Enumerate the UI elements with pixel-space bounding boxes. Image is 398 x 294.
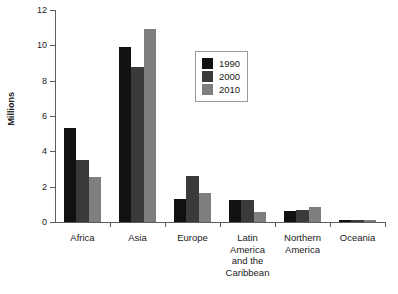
y-tick-label: 2 [42, 182, 47, 192]
plot-area: 024681012 AfricaAsiaEuropeLatinAmericaan… [55, 10, 385, 222]
legend-item: 2000 [202, 70, 240, 83]
x-tick-mark [385, 222, 386, 227]
x-axis-category-label-line: Caribbean [220, 267, 275, 279]
bar [229, 200, 242, 222]
bar [254, 212, 267, 222]
bar [199, 193, 212, 222]
x-axis-category-label: LatinAmericaand theCaribbean [220, 232, 275, 278]
x-tick-mark [330, 222, 331, 227]
legend-swatch-2000 [202, 71, 213, 82]
x-tick-mark [275, 222, 276, 227]
bar [364, 220, 377, 222]
chart-figure: Millions 024681012 AfricaAsiaEuropeLatin… [0, 0, 398, 294]
x-axis-category-label: Asia [110, 232, 165, 244]
x-axis-category-label-line: Northern [275, 232, 330, 244]
x-axis-category-label-line: Europe [165, 232, 220, 244]
x-axis-category-label-line: and the [220, 255, 275, 267]
bar [284, 211, 297, 222]
x-tick-mark [110, 222, 111, 227]
legend-item: 2010 [202, 83, 240, 96]
bars-layer [55, 10, 385, 222]
bar [89, 177, 102, 222]
bar [351, 220, 364, 222]
chart-legend: 199020002010 [195, 51, 248, 102]
y-tick-label: 4 [42, 146, 47, 156]
legend-label: 2000 [219, 71, 240, 82]
y-tick-label: 6 [42, 111, 47, 121]
bar [309, 207, 322, 222]
legend-swatch-2010 [202, 84, 213, 95]
bar [296, 210, 309, 222]
legend-label: 1990 [219, 58, 240, 69]
bar [64, 128, 77, 222]
x-axis-category-label-line: America [275, 244, 330, 256]
legend-item: 1990 [202, 57, 240, 70]
x-axis-category-label: Europe [165, 232, 220, 244]
bar [131, 67, 144, 222]
y-tick-label: 12 [37, 5, 47, 15]
x-axis-category-label-line: Latin [220, 232, 275, 244]
y-tick-label: 8 [42, 76, 47, 86]
y-axis-title: Millions [6, 92, 22, 126]
x-axis-category-label: NorthernAmerica [275, 232, 330, 255]
y-tick-label: 10 [37, 40, 47, 50]
bar [186, 176, 199, 222]
x-axis-category-label: Africa [55, 232, 110, 244]
bar [119, 47, 132, 222]
bar [174, 199, 187, 222]
x-axis-category-label-line: America [220, 244, 275, 256]
x-axis-category-label: Oceania [330, 232, 385, 244]
y-tick-label: 0 [42, 217, 47, 227]
x-tick-mark [165, 222, 166, 227]
bar [144, 29, 157, 222]
x-axis-category-label-line: Asia [110, 232, 165, 244]
y-tick-mark [50, 222, 55, 223]
legend-label: 2010 [219, 84, 240, 95]
legend-swatch-1990 [202, 58, 213, 69]
bar [241, 200, 254, 222]
bar [76, 160, 89, 222]
bar [339, 220, 352, 222]
x-tick-mark [220, 222, 221, 227]
x-axis-category-label-line: Oceania [330, 232, 385, 244]
x-axis-category-label-line: Africa [55, 232, 110, 244]
